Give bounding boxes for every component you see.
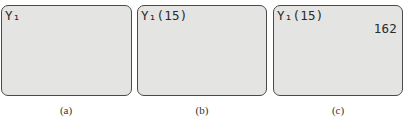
caption-b: (b) bbox=[172, 104, 232, 116]
screen-expression: Y₁ bbox=[5, 9, 20, 22]
calculator-screen-a: Y₁ bbox=[1, 5, 132, 96]
caption-a: (a) bbox=[36, 104, 96, 116]
screen-expression: Y₁(15) bbox=[277, 9, 323, 22]
screen-expression: Y₁(15) bbox=[141, 9, 187, 22]
caption-c: (c) bbox=[308, 104, 368, 116]
calculator-screen-c: Y₁(15) 162 bbox=[273, 5, 403, 96]
calculator-screen-b: Y₁(15) bbox=[137, 5, 267, 96]
screen-result: 162 bbox=[374, 22, 397, 35]
